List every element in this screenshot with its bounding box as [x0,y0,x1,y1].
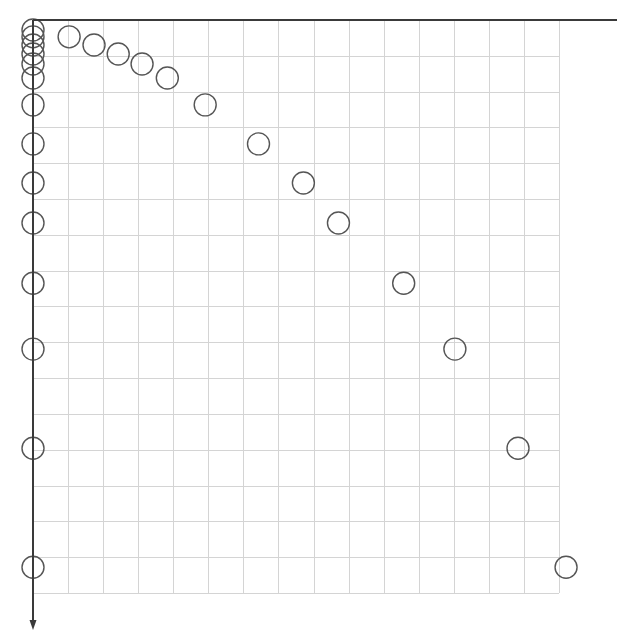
data-point-circle [194,94,216,116]
axes [30,20,617,630]
scatter-chart [0,0,617,640]
y-axis-arrow-icon [30,620,37,630]
data-point-circle [555,556,577,578]
data-point-circle [58,26,80,48]
data-point-circle [327,212,349,234]
data-point-markers [58,26,577,578]
data-point-circle [107,43,129,65]
data-point-circle [393,272,415,294]
data-point-circle [292,172,314,194]
data-point-circle [248,133,270,155]
data-point-circle [156,67,178,89]
data-point-circle [83,34,105,56]
grid [33,20,560,594]
chart-canvas [0,0,617,640]
data-point-circle [507,437,529,459]
